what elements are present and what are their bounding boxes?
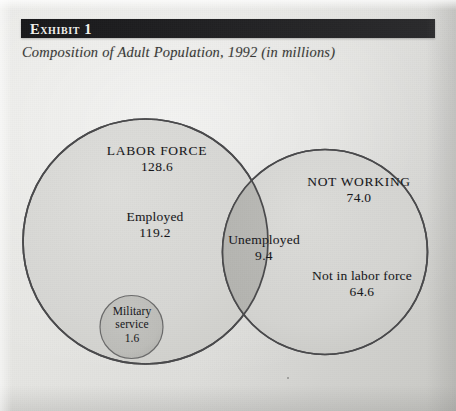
label-labor-force-name: LABOR FORCE bbox=[72, 143, 242, 159]
label-military-service-value: 1.6 bbox=[101, 332, 163, 345]
label-employed-name: Employed bbox=[80, 209, 230, 225]
label-labor-force-value: 128.6 bbox=[72, 159, 242, 175]
exhibit-title-bar: Exhibit 1 bbox=[21, 19, 435, 38]
label-not-in-labor-force-name: Not in labor force bbox=[288, 268, 436, 284]
venn-diagram bbox=[0, 0, 456, 411]
label-not-working: NOT WORKING 74.0 bbox=[283, 174, 435, 205]
label-military-service-line1: Military bbox=[101, 305, 163, 318]
label-not-in-labor-force: Not in labor force 64.6 bbox=[288, 268, 436, 299]
label-not-working-value: 74.0 bbox=[283, 190, 435, 206]
label-military-service-line2: service bbox=[101, 318, 163, 331]
label-unemployed: Unemployed 9.4 bbox=[200, 232, 328, 263]
label-not-working-name: NOT WORKING bbox=[283, 174, 435, 190]
label-not-in-labor-force-value: 64.6 bbox=[288, 284, 436, 300]
exhibit-page: Exhibit 1 Composition of Adult Populatio… bbox=[0, 0, 456, 411]
label-unemployed-name: Unemployed bbox=[200, 232, 328, 248]
exhibit-subtitle: Composition of Adult Population, 1992 (i… bbox=[22, 44, 335, 61]
label-military-service: Military service 1.6 bbox=[101, 305, 163, 345]
exhibit-tag: Exhibit 1 bbox=[30, 20, 92, 38]
label-labor-force: LABOR FORCE 128.6 bbox=[72, 143, 242, 174]
label-unemployed-value: 9.4 bbox=[200, 248, 328, 264]
scan-speck bbox=[287, 377, 289, 379]
